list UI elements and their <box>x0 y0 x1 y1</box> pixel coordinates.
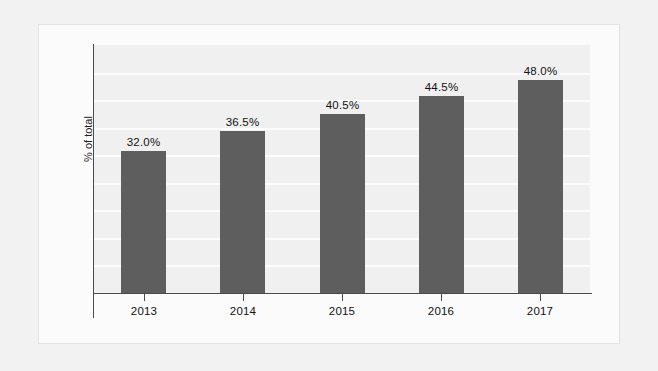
bar-2015[interactable] <box>320 114 365 293</box>
x-axis-label-2017: 2017 <box>527 305 553 317</box>
x-axis-tick <box>441 294 442 301</box>
bar-group[interactable]: 32.0% <box>121 45 166 293</box>
bar-2013[interactable] <box>121 151 166 293</box>
chart-card: 32.0%36.5%40.5%44.5%48.0% % of total 201… <box>38 24 620 344</box>
x-axis-tick <box>342 294 343 301</box>
x-axis-label-2014: 2014 <box>230 305 256 317</box>
plot-area: 32.0%36.5%40.5%44.5%48.0% <box>94 45 590 293</box>
bar-value-label: 36.5% <box>226 116 260 128</box>
bar-value-label: 48.0% <box>524 65 558 77</box>
bar-group[interactable]: 36.5% <box>220 45 265 293</box>
x-axis-tick <box>540 294 541 301</box>
bar-group[interactable]: 40.5% <box>320 45 365 293</box>
bar-group[interactable]: 44.5% <box>419 45 464 293</box>
bar-2014[interactable] <box>220 131 265 293</box>
x-axis-label-2015: 2015 <box>329 305 355 317</box>
y-axis-title: % of total <box>82 84 94 194</box>
bar-group[interactable]: 48.0% <box>518 45 563 293</box>
x-axis-tick <box>243 294 244 301</box>
bar-2016[interactable] <box>419 96 464 293</box>
bar-value-label: 32.0% <box>127 136 161 148</box>
x-axis-tick <box>144 294 145 301</box>
x-axis-label-2013: 2013 <box>131 305 157 317</box>
x-axis-label-2016: 2016 <box>428 305 454 317</box>
bar-2017[interactable] <box>518 80 563 293</box>
bar-value-label: 40.5% <box>326 99 360 111</box>
bar-value-label: 44.5% <box>425 81 459 93</box>
